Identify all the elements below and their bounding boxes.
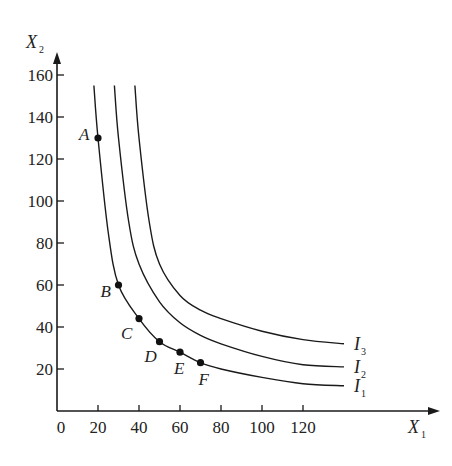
x-axis-arrow-icon (428, 407, 440, 415)
svg-text:F: F (198, 370, 210, 389)
indifference-curve-chart: X 2 X 1 02040608010012020406080100120140… (0, 0, 452, 466)
x-axis-label: X 1 (407, 417, 426, 440)
point-A: A (78, 125, 102, 144)
svg-text:I: I (353, 357, 361, 377)
svg-text:A: A (78, 125, 90, 144)
indifference-curve-2 (114, 86, 344, 367)
svg-text:I: I (353, 376, 361, 396)
svg-text:D: D (144, 347, 158, 366)
svg-text:1: 1 (361, 388, 366, 399)
svg-text:2: 2 (39, 44, 44, 55)
curve-label-2: I2 (353, 357, 366, 380)
y-tick-label: 60 (36, 276, 53, 295)
point-C: C (121, 315, 143, 343)
svg-text:C: C (121, 324, 133, 343)
x-tick-label: 0 (57, 418, 66, 437)
point-E: E (173, 349, 185, 379)
x-tick-label: 80 (213, 418, 230, 437)
labeled-points: ABCDEF (78, 125, 210, 389)
svg-text:2: 2 (361, 369, 366, 380)
y-tick-label: 80 (36, 234, 53, 253)
x-tick-label: 120 (290, 418, 316, 437)
tick-marks: 02040608010012020406080100120140160 (28, 66, 316, 437)
y-tick-label: 20 (36, 360, 53, 379)
curve-label-3: I3 (353, 334, 366, 357)
svg-text:B: B (101, 282, 112, 301)
y-tick-label: 40 (36, 318, 53, 337)
y-tick-label: 120 (28, 150, 54, 169)
x-tick-label: 60 (172, 418, 189, 437)
x-tick-label: 20 (90, 418, 107, 437)
x-tick-label: 100 (249, 418, 275, 437)
y-tick-label: 160 (28, 66, 54, 85)
svg-text:X: X (407, 417, 420, 437)
svg-text:3: 3 (361, 346, 366, 357)
indifference-curve-3 (135, 86, 344, 344)
point-D: D (144, 338, 164, 366)
point-F: F (197, 359, 210, 389)
svg-text:1: 1 (421, 429, 426, 440)
x-tick-label: 40 (131, 418, 148, 437)
y-tick-label: 140 (28, 108, 54, 127)
y-axis-label: X 2 (25, 32, 44, 55)
y-axis-arrow-icon (53, 52, 61, 64)
svg-text:X: X (25, 32, 38, 52)
indifference-curves: I1I2I3 (94, 86, 366, 399)
svg-text:I: I (353, 334, 361, 354)
y-tick-label: 100 (28, 192, 54, 211)
point-B: B (101, 281, 123, 301)
svg-text:E: E (173, 359, 185, 378)
